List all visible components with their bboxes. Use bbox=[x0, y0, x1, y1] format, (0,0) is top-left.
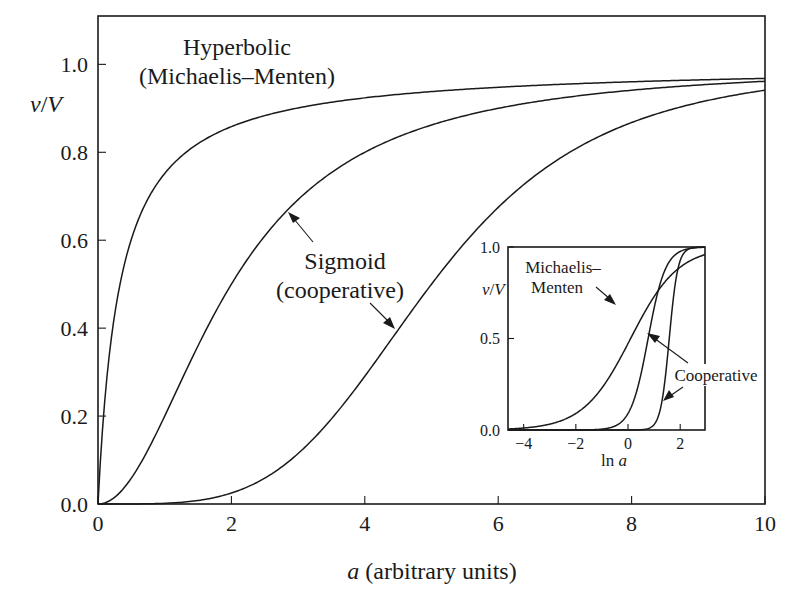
main-y-tick-label: 0.4 bbox=[61, 316, 89, 341]
main-plot: 0246810 0.00.20.40.60.81.0 v/V a (arbitr… bbox=[30, 16, 776, 584]
inset-plot: −4−202 0.00.51.0 v/V ln a Michaelis– Men… bbox=[480, 239, 764, 470]
inset-x-tick-label: 0 bbox=[624, 435, 632, 452]
figure: 0246810 0.00.20.40.60.81.0 v/V a (arbitr… bbox=[0, 0, 792, 593]
main-x-tick-label: 6 bbox=[493, 511, 504, 536]
inset-annotation-cooperative: Cooperative bbox=[674, 366, 757, 385]
main-x-tick-label: 10 bbox=[754, 511, 776, 536]
inset-y-tick-label: 0.5 bbox=[480, 330, 500, 347]
y-label-V: V bbox=[47, 91, 64, 117]
annotation-hyperbolic-line1: Hyperbolic bbox=[183, 34, 291, 60]
annotation-sigmoid-line1: Sigmoid bbox=[304, 248, 385, 274]
inset-y-axis: 0.00.51.0 bbox=[480, 239, 514, 439]
annotation-hyperbolic-line2: (Michaelis–Menten) bbox=[139, 63, 335, 89]
inset-x-axis-label: ln a bbox=[601, 451, 627, 470]
inset-x-label-var: a bbox=[618, 451, 627, 470]
main-x-tick-label: 8 bbox=[626, 511, 637, 536]
main-x-tick-label: 2 bbox=[226, 511, 237, 536]
main-series-line-2 bbox=[98, 81, 765, 504]
inset-mm-arrow bbox=[596, 287, 616, 305]
inset-y-tick-label: 1.0 bbox=[480, 239, 500, 256]
x-label-rest: (arbitrary units) bbox=[359, 558, 516, 584]
x-label-var: a bbox=[347, 558, 359, 584]
inset-y-tick-label: 0.0 bbox=[480, 422, 500, 439]
main-y-axis: 0.00.20.40.60.81.0 bbox=[61, 52, 107, 517]
main-series bbox=[98, 78, 765, 504]
inset-annotation-mm-line1: Michaelis– bbox=[525, 258, 601, 277]
main-series-line-3 bbox=[98, 90, 765, 504]
inset-x-axis: −4−202 bbox=[515, 424, 684, 452]
main-y-tick-label: 1.0 bbox=[61, 52, 89, 77]
inset-x-tick-label: −2 bbox=[567, 435, 584, 452]
main-y-tick-label: 0.2 bbox=[61, 404, 89, 429]
cooperative-arrow-lower bbox=[663, 387, 683, 401]
main-x-tick-label: 0 bbox=[93, 511, 104, 536]
main-y-tick-label: 0.8 bbox=[61, 140, 89, 165]
sigmoid-arrow-lower bbox=[370, 303, 395, 329]
main-y-axis-label: v/V bbox=[30, 91, 64, 117]
main-y-tick-label: 0.6 bbox=[61, 228, 89, 253]
inset-annotation-mm-line2: Menten bbox=[531, 278, 583, 297]
main-x-axis: 0246810 bbox=[93, 496, 777, 536]
annotation-sigmoid-line2: (cooperative) bbox=[276, 277, 404, 303]
main-series-line-1 bbox=[98, 78, 765, 504]
main-x-tick-label: 4 bbox=[359, 511, 370, 536]
sigmoid-arrow-upper bbox=[288, 212, 313, 242]
main-x-axis-label: a (arbitrary units) bbox=[347, 558, 516, 584]
inset-x-tick-label: −4 bbox=[515, 435, 532, 452]
inset-x-tick-label: 2 bbox=[676, 435, 684, 452]
inset-y-label-V: V bbox=[494, 280, 507, 299]
inset-y-axis-label: v/V bbox=[482, 280, 507, 299]
y-label-v: v bbox=[30, 91, 41, 117]
main-y-tick-label: 0.0 bbox=[61, 492, 89, 517]
inset-x-label-pre: ln bbox=[601, 451, 618, 470]
